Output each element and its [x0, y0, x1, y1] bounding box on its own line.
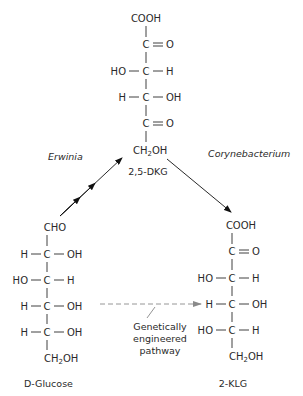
carbon: C [229, 299, 236, 310]
carbon: C [143, 118, 150, 129]
erwinia-arrow: Erwinia [48, 151, 122, 216]
carbon: C [229, 246, 236, 257]
hydrogen: H [252, 273, 260, 284]
carbon: C [44, 249, 51, 260]
oxygen: O [166, 39, 174, 50]
ch2oh-group: CH2OH [229, 351, 263, 364]
carbon: C [229, 273, 236, 284]
molecule-2-klg: COOH C O HO C H H C OH HO C H CH2OH 2-KL… [198, 220, 268, 389]
carbon: C [229, 325, 236, 336]
label-pathway: pathway [140, 345, 181, 356]
oxygen: O [166, 118, 174, 129]
label-corynebacterium: Corynebacterium [208, 148, 290, 159]
label-genetically: Genetically [133, 321, 187, 332]
arrow-line [167, 159, 231, 212]
engineered-pathway-arrow: Genetically engineered pathway [100, 304, 201, 356]
hydrogen: H [205, 299, 213, 310]
carbon: C [44, 327, 51, 338]
ho-group: HO [198, 273, 214, 284]
cho-group: CHO [44, 222, 67, 233]
oh-group: OH [67, 301, 82, 312]
oh-group: OH [252, 299, 267, 310]
label-engineered: engineered [133, 333, 187, 344]
hydrogen: H [67, 275, 75, 286]
carbon: C [143, 66, 150, 77]
hydrogen: H [118, 92, 126, 103]
oxygen: O [252, 246, 260, 257]
label-2-5-dkg: 2,5-DKG [128, 166, 167, 177]
ho-group: HO [111, 66, 127, 77]
hydrogen: H [252, 325, 260, 336]
hydrogen: H [20, 249, 28, 260]
ho-group: HO [13, 275, 29, 286]
oh-group: OH [67, 327, 82, 338]
ch2oh-group: CH2OH [44, 353, 78, 366]
hydrogen: H [166, 66, 174, 77]
corynebacterium-arrow: Corynebacterium [167, 148, 290, 212]
arrow-midhead [60, 183, 95, 216]
label-d-glucose: D-Glucose [24, 378, 73, 389]
leader-line [147, 307, 155, 318]
carbon: C [143, 92, 150, 103]
molecule-d-glucose: CHO H C OH HO C H H C OH H C OH CH2OH D-… [13, 222, 83, 389]
pathway-diagram: COOH C O HO C H H C OH C O CH2OH 2,5-DKG… [0, 0, 303, 396]
carbon: C [44, 301, 51, 312]
oh-group: OH [166, 92, 181, 103]
ch2oh-group: CH2OH [133, 145, 167, 158]
cooh-group: COOH [226, 220, 256, 231]
molecule-2-5-dkg: COOH C O HO C H H C OH C O CH2OH 2,5-DKG [111, 13, 182, 177]
cooh-group: COOH [131, 13, 161, 24]
ho-group: HO [198, 325, 214, 336]
hydrogen: H [20, 301, 28, 312]
carbon: C [44, 275, 51, 286]
oh-group: OH [67, 249, 82, 260]
label-2-klg: 2-KLG [219, 378, 247, 389]
carbon: C [143, 39, 150, 50]
hydrogen: H [20, 327, 28, 338]
label-erwinia: Erwinia [48, 151, 83, 162]
